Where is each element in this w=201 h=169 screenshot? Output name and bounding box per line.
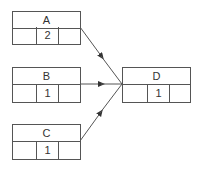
node-c: C 1: [12, 124, 81, 160]
node-d-value: 1: [147, 85, 169, 102]
node-c-fields: 1: [13, 142, 80, 159]
node-b-fields: 1: [13, 85, 80, 102]
node-b-value: 1: [36, 85, 58, 102]
node-c-title: C: [13, 125, 80, 142]
edge-a-to-d: [80, 27, 122, 84]
node-a: A 2: [12, 11, 81, 45]
node-a-field-right: [58, 27, 80, 44]
node-d-field-right: [169, 85, 190, 102]
node-b-title: B: [13, 68, 80, 85]
node-d: D 1: [122, 67, 191, 103]
node-a-value: 2: [36, 27, 58, 44]
node-d-fields: 1: [123, 85, 190, 102]
node-b-field-left: [13, 85, 36, 102]
node-d-field-left: [123, 85, 147, 102]
node-d-title: D: [123, 68, 190, 85]
node-b-field-right: [58, 85, 80, 102]
node-b: B 1: [12, 67, 81, 103]
node-a-field-left: [13, 27, 36, 44]
node-c-value: 1: [36, 142, 58, 159]
node-a-fields: 2: [13, 27, 80, 44]
node-c-field-left: [13, 142, 36, 159]
edge-c-to-d: [80, 84, 122, 141]
node-c-field-right: [58, 142, 80, 159]
